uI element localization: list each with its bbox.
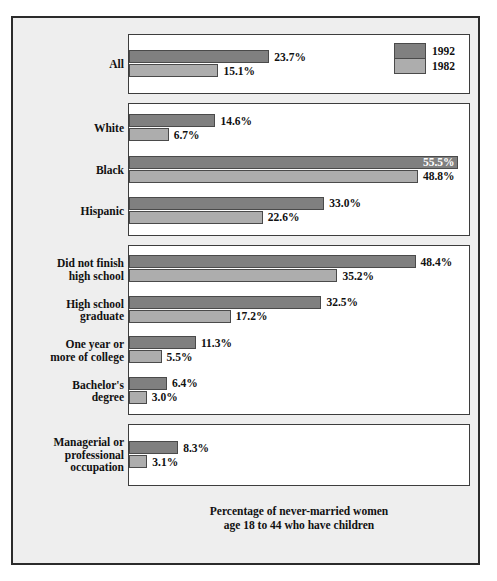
bar-1982: 6.7%	[129, 128, 469, 141]
chart-row: Hispanic33.0%22.6%	[129, 194, 469, 228]
bar-1992: 6.4%	[129, 377, 469, 390]
bar-1982: 17.2%	[129, 310, 469, 323]
bar-value-1982: 48.8%	[423, 170, 455, 182]
bar-rect-1982	[129, 128, 169, 141]
row-label: Managerial or professional occupation	[14, 436, 124, 474]
bar-1982: 22.6%	[129, 211, 469, 224]
bar-pair: 55.5%48.8%	[129, 153, 469, 187]
bar-rect-1992	[129, 441, 178, 454]
legend-label-1992: 1992	[432, 44, 455, 59]
bar-value-1982: 17.2%	[236, 310, 268, 322]
bar-rect-1982	[129, 170, 418, 183]
bar-value-1982: 3.1%	[152, 456, 178, 468]
figure-frame: All23.7%15.1%19921982White14.6%6.7%Black…	[11, 16, 480, 565]
bar-rect-1982	[129, 455, 147, 468]
row-label: Hispanic	[14, 205, 124, 218]
chart-figure: All23.7%15.1%19921982White14.6%6.7%Black…	[0, 0, 497, 581]
bar-1992: 55.5%	[129, 156, 469, 169]
bar-1982: 5.5%	[129, 350, 469, 363]
bar-value-1982: 35.2%	[342, 270, 374, 282]
bar-rect-1982	[129, 64, 218, 77]
chart-row: Managerial or professional occupation8.3…	[129, 438, 469, 472]
chart-panel-race-ethnicity: White14.6%6.7%Black55.5%48.8%Hispanic33.…	[128, 103, 470, 236]
bar-value-1982: 6.7%	[174, 129, 200, 141]
row-label: Did not finish high school	[14, 257, 124, 282]
row-label: One year or more of college	[14, 338, 124, 363]
bar-pair: 8.3%3.1%	[129, 438, 469, 472]
chart-row: Black55.5%48.8%	[129, 153, 469, 187]
chart-row: White14.6%6.7%	[129, 111, 469, 145]
legend-swatch-1992	[395, 44, 425, 59]
bar-rect-1982	[129, 269, 337, 282]
row-label: Black	[14, 163, 124, 176]
legend-labels: 19921982	[432, 44, 455, 74]
bar-value-1992: 6.4%	[172, 377, 198, 389]
bar-value-1992: 11.3%	[201, 337, 232, 349]
bar-pair: 32.5%17.2%	[129, 293, 469, 327]
bar-value-1982: 5.5%	[167, 351, 193, 363]
bar-1992: 33.0%	[129, 197, 469, 210]
bar-rect-1982	[129, 310, 231, 323]
bar-value-1992: 55.5%	[423, 156, 455, 168]
bar-value-1992: 8.3%	[183, 442, 209, 454]
bar-1982: 3.0%	[129, 391, 469, 404]
bar-1992: 14.6%	[129, 114, 469, 127]
chart-row: High school graduate32.5%17.2%	[129, 293, 469, 327]
bar-rect-1992	[129, 377, 167, 390]
bar-pair: 33.0%22.6%	[129, 194, 469, 228]
bar-pair: 48.4%35.2%	[129, 252, 469, 286]
bar-value-1992: 33.0%	[329, 197, 361, 209]
row-label: High school graduate	[14, 297, 124, 322]
chart-panel-overall: All23.7%15.1%19921982	[128, 34, 470, 94]
bar-rect-1992	[129, 114, 215, 127]
figure-plate: All23.7%15.1%19921982White14.6%6.7%Black…	[13, 18, 478, 563]
bar-value-1982: 22.6%	[268, 211, 300, 223]
bar-1982: 48.8%	[129, 170, 469, 183]
bar-value-1992: 23.7%	[274, 51, 306, 63]
chart-panel-occupation: Managerial or professional occupation8.3…	[128, 424, 470, 486]
chart-row: Did not finish high school48.4%35.2%	[129, 252, 469, 286]
bar-rect-1992	[129, 50, 269, 63]
bar-rect-1992	[129, 296, 321, 309]
bar-rect-1992	[129, 197, 324, 210]
bar-rect-1982	[129, 211, 263, 224]
bar-1992: 8.3%	[129, 441, 469, 454]
bar-1992: 11.3%	[129, 336, 469, 349]
legend-swatches	[394, 43, 426, 74]
legend-swatch-1982	[395, 59, 425, 73]
bar-value-1992: 14.6%	[220, 115, 252, 127]
bar-pair: 11.3%5.5%	[129, 333, 469, 367]
bar-pair: 14.6%6.7%	[129, 111, 469, 145]
legend-label-1982: 1982	[432, 59, 455, 74]
bar-rect-1992	[129, 255, 416, 268]
bar-pair: 6.4%3.0%	[129, 374, 469, 408]
chart-caption: Percentage of never-married women age 18…	[128, 505, 470, 532]
bar-rect-1992	[129, 336, 196, 349]
bar-1982: 35.2%	[129, 269, 469, 282]
chart-row: Bachelor's degree6.4%3.0%	[129, 374, 469, 408]
chart-panel-education: Did not finish high school48.4%35.2%High…	[128, 245, 470, 415]
bar-value-1992: 32.5%	[326, 296, 358, 308]
bar-value-1992: 48.4%	[421, 256, 453, 268]
bar-value-1982: 3.0%	[152, 391, 178, 403]
bar-rect-1992	[129, 156, 458, 169]
bar-1982: 3.1%	[129, 455, 469, 468]
bar-rect-1982	[129, 350, 162, 363]
bar-value-1982: 15.1%	[223, 65, 255, 77]
chart-row: One year or more of college11.3%5.5%	[129, 333, 469, 367]
row-label: All	[14, 58, 124, 71]
chart-legend: 19921982	[394, 43, 455, 74]
row-label: White	[14, 122, 124, 135]
bar-rect-1982	[129, 391, 147, 404]
row-label: Bachelor's degree	[14, 378, 124, 403]
bar-1992: 32.5%	[129, 296, 469, 309]
bar-1992: 48.4%	[129, 255, 469, 268]
